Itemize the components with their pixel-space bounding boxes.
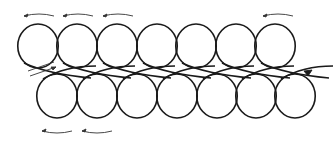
bottom-loop <box>37 74 77 118</box>
top-loop <box>57 24 97 68</box>
top-loop <box>97 24 137 68</box>
bottom-loop <box>236 74 276 118</box>
arrowhead-icon <box>42 129 46 132</box>
bottom-loop <box>117 74 157 118</box>
arrowhead-icon <box>263 14 267 17</box>
bottom-loop <box>275 74 315 118</box>
loop-rows <box>18 24 333 118</box>
coil-loop-diagram <box>0 0 333 141</box>
direction-arrow <box>24 14 54 16</box>
top-loop <box>216 24 256 68</box>
direction-arrow <box>103 14 133 16</box>
top-loop <box>176 24 216 68</box>
arrowhead-icon <box>63 14 67 17</box>
arrowhead-icon <box>24 14 28 17</box>
direction-arrow <box>82 131 112 133</box>
arrowhead-icon <box>103 14 107 17</box>
top-loop <box>18 24 58 68</box>
arrowhead-icon <box>82 129 86 132</box>
direction-arrow <box>42 131 72 133</box>
bottom-loop <box>157 74 197 118</box>
top-loop <box>255 24 295 68</box>
bottom-loop <box>197 74 237 118</box>
top-loop <box>137 24 177 68</box>
bottom-loop <box>77 74 117 118</box>
direction-arrow <box>63 14 93 16</box>
arrowhead-icon <box>51 67 56 70</box>
direction-arrow <box>263 14 293 16</box>
connector <box>24 63 91 78</box>
